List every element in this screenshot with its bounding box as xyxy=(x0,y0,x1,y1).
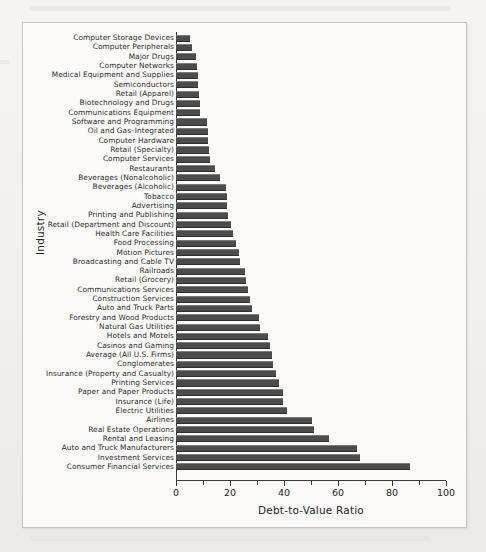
scanned-page-background: Computer Storage DevicesComputer Periphe… xyxy=(0,0,486,552)
page-bleed-through-line xyxy=(0,60,9,64)
bar xyxy=(176,81,198,88)
bar-row: Insurance (Life) xyxy=(23,397,468,406)
bar-row: Biotechnology and Drugs xyxy=(23,99,468,108)
bar-category-label: Printing Services xyxy=(111,379,174,386)
bar xyxy=(176,305,252,312)
bar-category-label: Electric Utilities xyxy=(116,407,174,414)
bar-category-label: Natural Gas Utilities xyxy=(99,323,174,330)
bar xyxy=(176,53,196,60)
bar-category-label: Beverages (Alcoholic) xyxy=(93,184,174,191)
bar-category-label: Retail (Grocery) xyxy=(115,277,174,284)
bar-row: Average (All U.S. Firms) xyxy=(23,350,468,359)
bar-row: Casinos and Gaming xyxy=(23,341,468,350)
bar-row: Construction Services xyxy=(23,294,468,303)
bar-category-label: Hotels and Motels xyxy=(107,333,174,340)
bar-row: Investment Services xyxy=(23,453,468,462)
bar-category-label: Forestry and Wood Products xyxy=(69,314,174,321)
x-axis-tick xyxy=(176,481,177,486)
bar-row: Beverages (Nonalcoholic) xyxy=(23,173,468,182)
bar-category-label: Food Processing xyxy=(114,239,174,246)
bar-category-label: Advertising xyxy=(132,202,174,209)
bar-row: Food Processing xyxy=(23,239,468,248)
bar-category-label: Real Estate Operations xyxy=(88,426,174,433)
bar-row: Printing and Publishing xyxy=(23,211,468,220)
bar-category-label: Restaurants xyxy=(129,165,174,172)
bar-category-label: Software and Programming xyxy=(72,118,174,125)
bar-row: Natural Gas Utilities xyxy=(23,322,468,331)
bar-row: Medical Equipment and Supplies xyxy=(23,71,468,80)
x-axis-tick xyxy=(338,481,339,486)
x-axis-tick-label: 40 xyxy=(278,487,290,498)
bar xyxy=(176,137,208,144)
bar-category-label: Auto and Truck Parts xyxy=(97,305,174,312)
bar-row: Beverages (Alcoholic) xyxy=(23,183,468,192)
bar-category-label: Retail (Department and Discount) xyxy=(48,221,174,228)
bar-chart-plot-area: Computer Storage DevicesComputer Periphe… xyxy=(23,23,468,529)
bar-category-label: Broadcasting and Cable TV xyxy=(73,258,174,265)
bar xyxy=(176,165,215,172)
bar xyxy=(176,109,200,116)
x-axis-tick xyxy=(392,481,393,486)
bar-category-label: Construction Services xyxy=(92,295,174,302)
bar xyxy=(176,118,207,125)
bar-row: Advertising xyxy=(23,201,468,210)
bar xyxy=(176,445,357,452)
bar-row: Forestry and Wood Products xyxy=(23,313,468,322)
x-axis-tick-label: 0 xyxy=(173,487,179,498)
bar-row: Auto and Truck Manufacturers xyxy=(23,444,468,453)
bar xyxy=(176,296,250,303)
bar-row: Paper and Paper Products xyxy=(23,388,468,397)
x-axis-tick-label: 100 xyxy=(437,487,455,498)
bar-category-label: Computer Services xyxy=(103,156,174,163)
bar-category-label: Medical Equipment and Supplies xyxy=(52,72,174,79)
bar-row: Motion Pictures xyxy=(23,248,468,257)
bar-row: Printing Services xyxy=(23,378,468,387)
bar xyxy=(176,398,283,405)
bar-row: Hotels and Motels xyxy=(23,332,468,341)
bar xyxy=(176,202,227,209)
bar-category-label: Biotechnology and Drugs xyxy=(80,100,174,107)
bar-category-label: Major Drugs xyxy=(129,53,174,60)
bar xyxy=(176,268,245,275)
bar-category-label: Insurance (Life) xyxy=(116,398,175,405)
bar-row: Broadcasting and Cable TV xyxy=(23,257,468,266)
bar xyxy=(176,370,276,377)
bar-row: Real Estate Operations xyxy=(23,425,468,434)
bar-category-label: Communications Equipment xyxy=(68,109,174,116)
bar-row: Computer Networks xyxy=(23,61,468,70)
bar-category-label: Casinos and Gaming xyxy=(97,342,174,349)
bar xyxy=(176,100,200,107)
bar-category-label: Semiconductors xyxy=(114,81,174,88)
bar xyxy=(176,44,192,51)
bar xyxy=(176,221,231,228)
bar-category-label: Auto and Truck Manufacturers xyxy=(62,445,174,452)
bar-category-label: Average (All U.S. Firms) xyxy=(86,351,174,358)
bar-category-label: Conglomerates xyxy=(117,361,174,368)
bar xyxy=(176,314,259,321)
bar xyxy=(176,333,268,340)
bar xyxy=(176,128,208,135)
bar-row: Auto and Truck Parts xyxy=(23,304,468,313)
x-axis-tick-label: 20 xyxy=(224,487,236,498)
bar-row: Electric Utilities xyxy=(23,406,468,415)
bar-category-label: Tobacco xyxy=(144,193,174,200)
bar-row: Computer Services xyxy=(23,155,468,164)
bar-row: Rental and Leasing xyxy=(23,434,468,443)
bar-category-label: Computer Storage Devices xyxy=(73,34,174,41)
bar-category-label: Railroads xyxy=(139,267,174,274)
x-axis-minor-tick xyxy=(203,481,204,485)
x-axis-tick xyxy=(446,481,447,486)
bar xyxy=(176,379,279,386)
bar xyxy=(176,72,198,79)
bar xyxy=(176,240,236,247)
bar-category-label: Rental and Leasing xyxy=(103,435,174,442)
bar xyxy=(176,435,329,442)
bar xyxy=(176,184,226,191)
bar-category-label: Computer Hardware xyxy=(98,137,174,144)
page-bleed-through-line xyxy=(30,536,430,541)
bar-category-label: Airlines xyxy=(146,417,174,424)
bar xyxy=(176,63,197,70)
x-axis-tick-label: 60 xyxy=(332,487,344,498)
bar xyxy=(176,258,240,265)
x-axis-tick xyxy=(284,481,285,486)
